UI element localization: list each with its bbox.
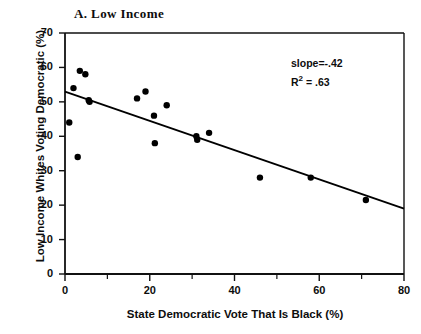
data-point: [194, 137, 200, 143]
data-point: [206, 130, 212, 136]
data-point: [75, 154, 81, 160]
y-tick-label: 20: [27, 198, 53, 210]
data-point: [257, 174, 263, 180]
data-point: [134, 95, 140, 101]
data-point: [66, 119, 72, 125]
x-tick-label: 0: [52, 284, 78, 296]
data-point: [308, 174, 314, 180]
x-tick-label: 20: [137, 284, 163, 296]
x-tick-label: 40: [222, 284, 248, 296]
data-point: [86, 99, 92, 105]
y-tick-label: 60: [27, 60, 53, 72]
data-point: [151, 112, 157, 118]
axes-frame: [65, 33, 404, 274]
data-point: [142, 88, 148, 94]
data-points: [66, 68, 369, 204]
data-point: [164, 102, 170, 108]
x-tick-marks: [65, 274, 404, 281]
x-tick-label: 80: [391, 284, 417, 296]
y-tick-label: 10: [27, 233, 53, 245]
data-point: [77, 68, 83, 74]
x-tick-label: 60: [306, 284, 332, 296]
chart-figure: A. Low Income Low Income Whites Voting D…: [0, 0, 421, 334]
y-tick-label: 70: [27, 26, 53, 38]
y-tick-label: 50: [27, 95, 53, 107]
data-point: [152, 140, 158, 146]
y-tick-label: 30: [27, 164, 53, 176]
data-point: [82, 71, 88, 77]
fit-line: [65, 92, 404, 209]
data-point: [363, 197, 369, 203]
data-point: [70, 85, 76, 91]
y-tick-label: 40: [27, 129, 53, 141]
y-tick-label: 0: [27, 267, 53, 279]
regression-line: [65, 92, 404, 209]
